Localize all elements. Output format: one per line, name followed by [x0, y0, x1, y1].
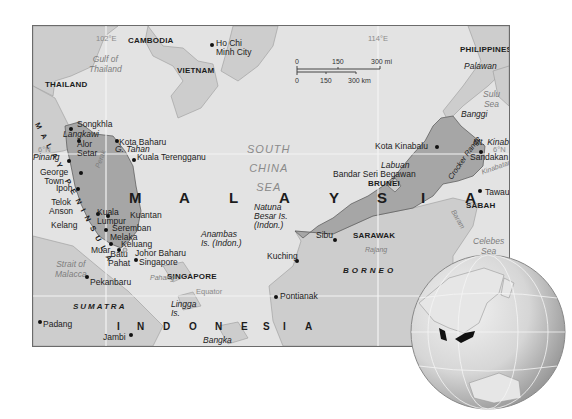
- city-label-pekanbaru: Pekanbaru: [90, 278, 131, 287]
- city-label-ipoh: Ipoh: [56, 184, 73, 193]
- city-label-kuala-terengganu: Kuala Terengganu: [137, 153, 206, 162]
- indonesia-letter: N: [137, 322, 144, 331]
- country-label-philippines: PHILIPPINES: [460, 45, 510, 54]
- scale-mi-150: 150: [332, 57, 344, 66]
- locator-globe: [409, 253, 567, 411]
- malaysia-letter: Y: [329, 193, 339, 202]
- city-label-batu-pahat: Batu Pahat: [108, 250, 130, 268]
- indonesia-letter: O: [189, 322, 197, 331]
- city-label-pontianak: Pontianak: [280, 292, 318, 301]
- indonesia-letter: A: [305, 322, 312, 331]
- city-dot: [129, 333, 133, 337]
- city-label-kelang: Kelang: [51, 221, 77, 230]
- city-dot: [76, 187, 80, 191]
- malaysia-letter: S: [377, 193, 387, 202]
- city-label-bandar-seri-begawan: Bandar Seri Begawan: [333, 170, 416, 179]
- city-label-alor-setar: Alor Setar: [77, 140, 97, 158]
- water-label-gulf-of-thailand: Gulf of Thailand: [89, 54, 122, 74]
- city-dot: [134, 258, 138, 262]
- island-label-pinang: Pinang: [33, 153, 59, 162]
- indonesia-letter: I: [283, 322, 286, 331]
- region-label-sabah: SABAH: [466, 201, 495, 210]
- city-dot: [38, 320, 42, 324]
- indonesia-letter: D: [163, 322, 170, 331]
- city-label-kota-baharu: Kota Baharu: [119, 138, 166, 147]
- malaysia-letter: A: [179, 193, 190, 202]
- city-dot: [69, 127, 73, 131]
- malaysia-letter: M: [129, 193, 142, 202]
- island-label-borneo: BORNEO: [343, 266, 396, 275]
- river-label-pahang: Pahang: [150, 273, 174, 282]
- region-label-sarawak: SARAWAK: [353, 231, 395, 240]
- city-dot: [478, 189, 482, 193]
- city-label-ho-chi-minh-city: Ho Chi Minh City: [216, 39, 251, 57]
- river-label-rajang: Rajang: [365, 245, 387, 254]
- city-dot: [274, 295, 278, 299]
- island-label-langkawi: Langkawi: [63, 130, 99, 139]
- scale-mi-300: 300 mi: [371, 57, 392, 66]
- scale-km-300: 300 km: [348, 76, 371, 85]
- city-label-tawau: Tawau: [485, 188, 510, 197]
- city-label-jambi: Jambi: [103, 333, 126, 342]
- island-label-bangka: Bangka: [203, 336, 232, 345]
- island-label-anambas-is: Anambas Is. (Indon.): [201, 230, 242, 248]
- island-label-palawan: Palawan: [464, 62, 497, 71]
- island-label-sumatra: SUMATRA: [73, 302, 126, 311]
- scale-mi-0: 0: [295, 57, 299, 66]
- city-dot: [79, 171, 83, 175]
- island-label-banggi: Banggi: [461, 110, 487, 119]
- country-label-vietnam: VIETNAM: [177, 66, 214, 75]
- city-label-sibu: Sibu: [316, 231, 333, 240]
- country-label-singapore: SINGAPORE: [167, 272, 217, 281]
- malaysia-letter: L: [229, 193, 238, 202]
- malaysia-letter: I: [421, 193, 425, 202]
- city-dot: [435, 145, 439, 149]
- indonesia-letter: N: [215, 322, 222, 331]
- city-dot: [67, 159, 71, 163]
- city-label-kuantan: Kuantan: [110, 211, 162, 220]
- city-label-sandakan: Sandakan: [470, 153, 508, 162]
- city-dot: [210, 43, 214, 47]
- longitude-label-102e: 102°E: [96, 34, 117, 43]
- city-dot: [132, 158, 136, 162]
- water-label-sulu-sea: Sulu Sea: [483, 89, 500, 109]
- country-label-cambodia: CAMBODIA: [128, 36, 174, 45]
- country-label-brunei: BRUNEI: [368, 179, 400, 188]
- equator-label: Equator: [196, 287, 222, 296]
- city-label-songkhla: Songkhla: [77, 120, 112, 129]
- scale-km-150: 150: [320, 76, 332, 85]
- water-label-south-china-sea: SOUTH CHINA SEA: [247, 140, 291, 197]
- city-label-kuching: Kuching: [267, 252, 298, 261]
- city-dot: [85, 275, 89, 279]
- city-label-telok-anson: Telok Anson: [49, 198, 73, 216]
- city-label-padang: Padang: [43, 320, 72, 329]
- scale-km-0: 0: [295, 76, 299, 85]
- indonesia-letter: I: [117, 322, 120, 331]
- island-label-lingga-is: Lingga Is.: [171, 300, 197, 318]
- country-label-thailand: THAILAND: [45, 80, 87, 89]
- island-label-natuna-besar-is: Natuna Besar Is. (Indon.): [254, 203, 288, 230]
- city-label-kota-kinabalu: Kota Kinabalu: [375, 142, 428, 151]
- indonesia-letter: E: [241, 322, 248, 331]
- indonesia-letter: S: [263, 322, 270, 331]
- city-dot: [333, 238, 337, 242]
- city-dot: [104, 228, 108, 232]
- longitude-label-114e: 114°E: [368, 34, 388, 43]
- water-label-strait-of-malacca: Strait of Malacca: [55, 259, 87, 279]
- city-label-singapore-city: Singapore: [139, 258, 178, 267]
